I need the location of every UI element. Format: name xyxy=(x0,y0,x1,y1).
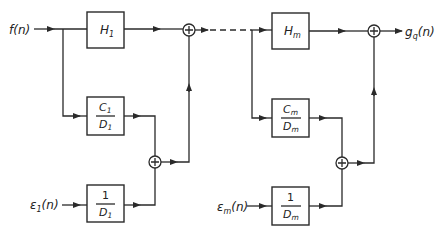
branch-to-c1d1 xyxy=(63,29,80,116)
branch-to-cmdm xyxy=(252,30,266,118)
summing-junction-top-m xyxy=(368,25,380,37)
error-input-m-label: εm(n) xyxy=(217,200,248,216)
summing-junction-bottom-1 xyxy=(149,156,161,168)
summing-junction-bottom-m xyxy=(336,157,348,169)
output-signal-label: gq(n) xyxy=(405,25,435,41)
one-over-dm-output-line xyxy=(326,169,342,206)
svg-text:1: 1 xyxy=(287,191,294,204)
lower-sum1-feed-line xyxy=(177,88,189,162)
one-over-d1-output-line xyxy=(140,168,155,205)
error-input-1-label: ε1(n) xyxy=(30,198,59,214)
lower-summ-feed-line xyxy=(364,92,374,163)
input-signal-label: f(n) xyxy=(9,23,30,37)
c1d1-output-line xyxy=(140,116,155,156)
svg-text:1: 1 xyxy=(102,189,109,202)
summing-junction-top-1 xyxy=(183,24,195,36)
block-diagram: f(n) H1 C1 D1 ε1(n) 1 xyxy=(0,0,439,232)
cmdm-output-line xyxy=(326,118,342,157)
